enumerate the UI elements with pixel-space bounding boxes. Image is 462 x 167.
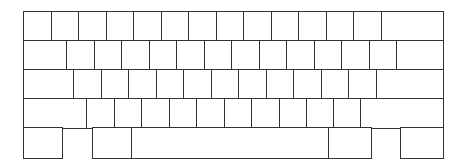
- key-outline: [121, 40, 150, 71]
- key-outline: [238, 69, 267, 100]
- key-outline: [266, 69, 295, 100]
- key-outline: [369, 40, 398, 71]
- key-outline: [271, 11, 300, 42]
- key-outline: [396, 40, 444, 71]
- key-outline: [204, 40, 233, 71]
- key-outline: [360, 98, 444, 129]
- key-outline: [381, 11, 444, 42]
- key-outline: [73, 69, 102, 100]
- key-outline: [183, 69, 212, 100]
- key-outline: [176, 40, 205, 71]
- key-outline: [333, 98, 362, 129]
- key-outline: [156, 69, 185, 100]
- key-outline: [78, 11, 107, 42]
- key-outline: [149, 40, 178, 71]
- key-outline: [293, 69, 322, 100]
- key-outline: [161, 11, 190, 42]
- key-outline: [341, 40, 370, 71]
- key-outline: [243, 11, 272, 42]
- key-outline: [114, 98, 143, 129]
- key-outline: [376, 69, 444, 100]
- key-outline: [92, 127, 133, 159]
- key-outline: [23, 98, 88, 129]
- key-outline: [216, 11, 245, 42]
- key-outline: [321, 69, 350, 100]
- key-outline: [196, 98, 225, 129]
- key-outline: [23, 127, 63, 159]
- key-outline: [259, 40, 288, 71]
- key-outline: [106, 11, 135, 42]
- key-outline: [141, 98, 170, 129]
- key-outline: [23, 11, 52, 42]
- key-outline: [23, 69, 75, 100]
- key-outline: [66, 40, 95, 71]
- key-outline: [51, 11, 80, 42]
- key-outline: [298, 11, 327, 42]
- key-outline: [328, 127, 372, 159]
- key-outline: [286, 40, 315, 71]
- key-outline: [314, 40, 343, 71]
- keyboard-diagram: [0, 0, 462, 167]
- key-outline: [400, 127, 444, 159]
- key-outline: [101, 69, 130, 100]
- key-outline: [348, 69, 378, 100]
- key-outline: [94, 40, 123, 71]
- key-outline: [326, 11, 355, 42]
- key-outline: [128, 69, 157, 100]
- key-outline: [188, 11, 217, 42]
- key-outline: [211, 69, 240, 100]
- key-outline: [231, 40, 260, 71]
- key-outline: [23, 40, 68, 71]
- key-outline: [86, 98, 115, 129]
- key-outline: [169, 98, 198, 129]
- key-outline: [353, 11, 383, 42]
- key-outline: [306, 98, 335, 129]
- key-outline: [133, 11, 162, 42]
- key-outline: [251, 98, 280, 129]
- key-outline: [131, 127, 330, 159]
- key-outline: [279, 98, 308, 129]
- key-outline: [224, 98, 253, 129]
